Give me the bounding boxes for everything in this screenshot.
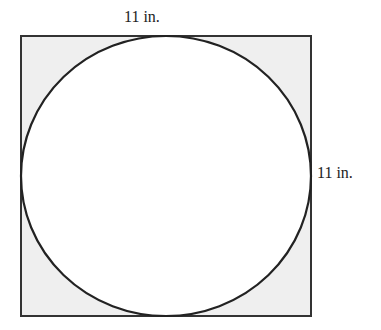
right-side-length-label: 11 in. <box>317 164 353 182</box>
inscribed-circle <box>21 36 311 316</box>
top-side-length-label: 11 in. <box>124 8 160 26</box>
